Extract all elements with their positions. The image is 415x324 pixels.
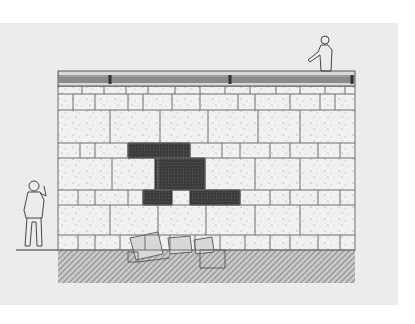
person-left-figure [24, 181, 46, 246]
coping-rail [58, 71, 355, 86]
wall-elevation-drawing [0, 0, 415, 324]
ground-hatch [58, 250, 355, 283]
person-on-wall-figure [308, 36, 332, 71]
